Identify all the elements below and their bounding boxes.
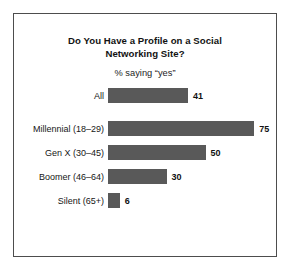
- bar-value-label: 50: [211, 148, 221, 157]
- bar-category-label: Silent (65+): [58, 196, 104, 205]
- bar: [108, 121, 254, 136]
- bar-value-label: 41: [193, 91, 203, 100]
- bar-track: 75: [108, 121, 276, 136]
- chart-header: Do You Have a Profile on a Social Networ…: [14, 35, 276, 78]
- chart-title-line-2: Networking Site?: [105, 48, 184, 59]
- bar-row: Boomer (46–64)30: [14, 169, 276, 184]
- bar: [108, 88, 188, 103]
- bar-category-label: Millennial (18–29): [33, 124, 104, 133]
- bar-category-label: All: [94, 91, 104, 100]
- bar-category-label: Boomer (46–64): [39, 172, 104, 181]
- bar: [108, 193, 120, 208]
- bar-row: Millennial (18–29)75: [14, 121, 276, 136]
- chart-subtitle: % saying “yes”: [14, 68, 276, 78]
- bar-track: 6: [108, 193, 276, 208]
- bar: [108, 145, 206, 160]
- bar-track: 41: [108, 88, 276, 103]
- bar-category-label: Gen X (30–45): [45, 148, 104, 157]
- bar-plot-area: All41Millennial (18–29)75Gen X (30–45)50…: [14, 88, 276, 217]
- chart-frame: Do You Have a Profile on a Social Networ…: [13, 13, 277, 257]
- bar-value-label: 75: [259, 124, 269, 133]
- bar-row: Silent (65+)6: [14, 193, 276, 208]
- bar-value-label: 6: [125, 196, 130, 205]
- bar-row: Gen X (30–45)50: [14, 145, 276, 160]
- bar-value-label: 30: [172, 172, 182, 181]
- chart-title: Do You Have a Profile on a Social Networ…: [14, 35, 276, 60]
- bar: [108, 169, 167, 184]
- chart-title-line-1: Do You Have a Profile on a Social: [68, 35, 222, 46]
- bar-track: 50: [108, 145, 276, 160]
- bar-row: All41: [14, 88, 276, 103]
- bar-track: 30: [108, 169, 276, 184]
